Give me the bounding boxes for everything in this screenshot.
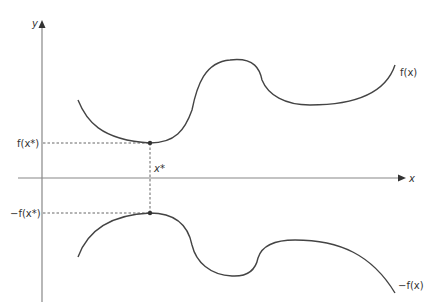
curve-f bbox=[78, 60, 395, 143]
x-star-label: x* bbox=[153, 163, 165, 174]
curve-neg-f bbox=[78, 213, 395, 293]
point-f-x-star bbox=[148, 141, 152, 145]
diagram-canvas: y x f(x*) −f(x*) x* f(x) −f(x) bbox=[0, 0, 440, 308]
curve-f-label: f(x) bbox=[400, 67, 417, 78]
x-axis-label: x bbox=[408, 173, 415, 184]
curve-neg-f-label: −f(x) bbox=[398, 280, 424, 291]
point-neg-f-x-star bbox=[148, 211, 152, 215]
y-axis-label: y bbox=[31, 18, 39, 29]
neg-f-x-star-label: −f(x*) bbox=[10, 208, 41, 219]
x-axis-arrow-icon bbox=[398, 175, 406, 182]
y-axis-arrow-icon bbox=[39, 20, 46, 28]
f-x-star-label: f(x*) bbox=[17, 138, 39, 149]
